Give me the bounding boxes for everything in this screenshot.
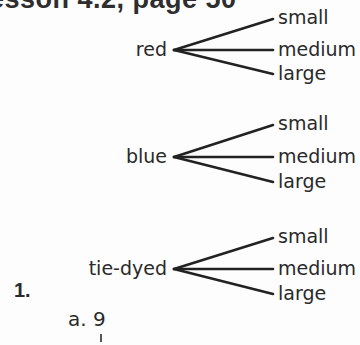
- sub-answer: a. 9: [68, 307, 106, 331]
- tree-root-label: red: [136, 40, 167, 59]
- tree-branch-label: medium: [278, 259, 356, 278]
- problem-number: 1.: [14, 279, 31, 302]
- tree-branch-label: large: [278, 64, 326, 83]
- tree-branch-label: large: [278, 284, 326, 303]
- tree-branch-label: small: [278, 8, 329, 27]
- branch-line-red-small: [174, 19, 273, 50]
- sub-answer-label: a.: [68, 307, 87, 331]
- branch-line-tiedyed-small: [174, 238, 273, 269]
- branch-line-red-large: [174, 50, 273, 74]
- sub-answer-value: 9: [93, 307, 106, 331]
- tree-branch-label: small: [278, 114, 329, 133]
- branch-line-tiedyed-large: [174, 269, 273, 294]
- branch-line-blue-small: [174, 125, 273, 157]
- tree-root-label: blue: [126, 147, 167, 166]
- branch-line-blue-large: [174, 157, 273, 182]
- cut-off-mark: [100, 334, 102, 342]
- tree-branch-label: large: [278, 172, 326, 191]
- tree-branch-label: medium: [278, 147, 356, 166]
- tree-branch-label: small: [278, 227, 329, 246]
- tree-branch-label: medium: [278, 40, 356, 59]
- tree-root-label: tie-dyed: [89, 259, 167, 278]
